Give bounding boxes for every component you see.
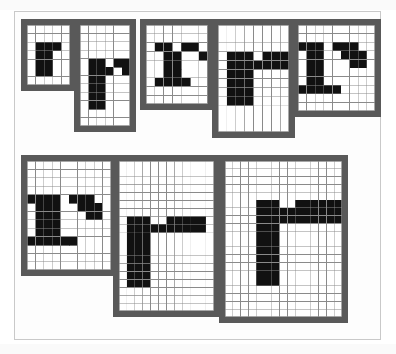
raster-frame-r-5x7 <box>21 19 76 91</box>
pixel-grid-canvas-r-15x20 <box>225 161 342 317</box>
raster-frame-r-9x10 <box>292 19 381 117</box>
pixel-grid-canvas-r-10x13 <box>27 161 111 270</box>
pixel-grid-canvas-r-9x10 <box>298 25 375 111</box>
pixel-grid-r-8x12 <box>218 25 289 132</box>
pixel-grid-r-10x13 <box>27 161 111 270</box>
pixel-grid-canvas-r-7x9 <box>146 25 208 104</box>
pixel-grid-r-12x19 <box>119 161 214 311</box>
pixel-grid-r-6x12 <box>80 25 130 126</box>
pixel-grid-canvas-r-8x12 <box>218 25 289 132</box>
raster-samples-layer <box>0 0 396 354</box>
pixel-grid-r-9x10 <box>298 25 375 111</box>
raster-frame-r-7x9 <box>140 19 214 110</box>
pixel-grid-r-15x20 <box>225 161 342 317</box>
raster-frame-r-15x20 <box>219 155 348 323</box>
raster-frame-r-10x13 <box>21 155 117 276</box>
pixel-grid-canvas-r-6x12 <box>80 25 130 126</box>
pixel-grid-canvas-r-5x7 <box>27 25 70 85</box>
pixel-grid-r-5x7 <box>27 25 70 85</box>
raster-frame-r-6x12 <box>74 19 136 132</box>
pixel-grid-canvas-r-12x19 <box>119 161 214 311</box>
figure-page <box>0 0 396 354</box>
raster-frame-r-12x19 <box>113 155 220 317</box>
raster-frame-r-8x12 <box>212 19 295 138</box>
pixel-grid-r-7x9 <box>146 25 208 104</box>
